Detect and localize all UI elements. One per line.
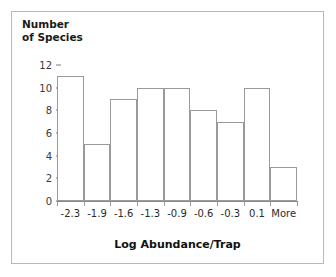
x-tick-mark (190, 202, 191, 206)
x-tick-label: -0.6 (194, 208, 214, 219)
histogram-bar (244, 88, 271, 201)
x-tick-mark (137, 202, 138, 206)
y-tick-mark (56, 65, 61, 66)
histogram-bar (190, 110, 217, 201)
y-tick-label: 8 (22, 105, 52, 116)
x-tick-mark (217, 202, 218, 206)
x-tick-label: More (271, 208, 296, 219)
x-tick-mark (270, 202, 271, 206)
x-tick-mark (244, 202, 245, 206)
histogram-figure: Number of Species 024681012 -2.3-1.9-1.6… (0, 0, 336, 277)
x-tick-label: 0.1 (249, 208, 265, 219)
histogram-bar (217, 122, 244, 201)
y-tick-label: 4 (22, 150, 52, 161)
x-axis-title: Log Abundance/Trap (57, 238, 298, 251)
y-tick-label: 10 (22, 82, 52, 93)
x-tick-mark (57, 202, 58, 206)
histogram-bar (110, 99, 137, 201)
x-tick-mark (110, 202, 111, 206)
histogram-bar (57, 76, 84, 201)
plot-area: 024681012 -2.3-1.9-1.6-1.3-0.9-0.6-0.30.… (0, 0, 336, 277)
x-axis-line (57, 201, 298, 202)
x-tick-mark (84, 202, 85, 206)
histogram-bar (270, 167, 297, 201)
x-tick-label: -1.3 (141, 208, 161, 219)
x-tick-label: -0.3 (221, 208, 241, 219)
histogram-bar (84, 144, 111, 201)
histogram-bar (164, 88, 191, 201)
y-tick-label: 6 (22, 128, 52, 139)
x-tick-label: -0.9 (167, 208, 187, 219)
y-tick-label: 2 (22, 173, 52, 184)
y-tick-label: 0 (22, 196, 52, 207)
x-tick-label: -1.6 (114, 208, 134, 219)
histogram-bar (137, 88, 164, 201)
y-tick-label: 12 (22, 60, 52, 71)
x-tick-mark (297, 202, 298, 206)
x-tick-label: -2.3 (61, 208, 81, 219)
x-tick-label: -1.9 (87, 208, 107, 219)
x-tick-mark (164, 202, 165, 206)
